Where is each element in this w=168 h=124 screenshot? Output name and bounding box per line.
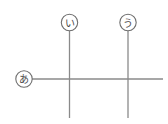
callout-text-a: あ (19, 74, 29, 85)
callout-label-u: う (120, 14, 136, 30)
callout-text-u: う (123, 18, 133, 29)
callout-text-i: い (65, 18, 75, 29)
callout-label-i: い (61, 14, 77, 30)
diagram-canvas: あ い う (0, 0, 168, 124)
callout-label-a: あ (16, 71, 32, 87)
diagram-svg: あ い う (0, 0, 168, 124)
